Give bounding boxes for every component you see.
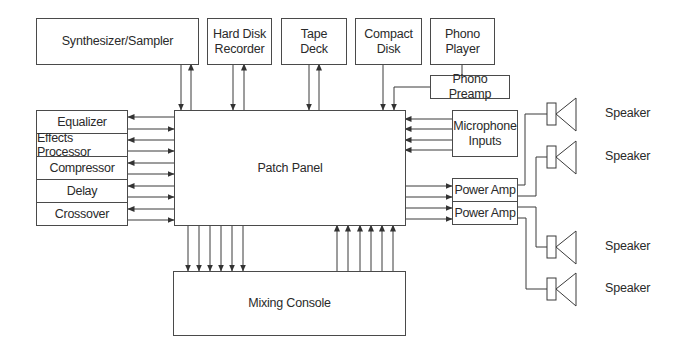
speaker-label-4: Speaker bbox=[605, 281, 650, 295]
delay-label: Delay bbox=[67, 184, 97, 198]
compact-disk-label: Compact Disk bbox=[364, 27, 413, 57]
mixing-console-label: Mixing Console bbox=[248, 296, 331, 311]
power-amp-label: Power Amp bbox=[454, 206, 515, 220]
patch-panel-label: Patch Panel bbox=[257, 161, 322, 176]
power-amp-label: Power Amp bbox=[454, 183, 515, 197]
hard-disk-recorder-box: Hard Disk Recorder bbox=[207, 18, 272, 65]
crossover-label: Crossover bbox=[55, 207, 109, 221]
speaker-icon bbox=[547, 231, 576, 264]
tape-deck-box: Tape Deck bbox=[281, 18, 347, 65]
phono-player-label: Phono Player bbox=[445, 27, 480, 57]
hard-disk-recorder-label: Hard Disk Recorder bbox=[213, 27, 266, 57]
compressor-box: Compressor bbox=[36, 156, 128, 180]
compressor-label: Compressor bbox=[49, 161, 114, 175]
power-amp-box-1: Power Amp bbox=[452, 178, 518, 202]
synthesizer-sampler-box: Synthesizer/Sampler bbox=[36, 18, 199, 65]
speaker-icon bbox=[547, 273, 576, 306]
equalizer-label: Equalizer bbox=[57, 115, 106, 129]
phono-preamp-label: Phono Preamp bbox=[431, 72, 509, 102]
preamp-to-patch-arrow bbox=[394, 87, 430, 110]
tape-deck-label: Tape Deck bbox=[300, 27, 328, 57]
speaker-label-2: Speaker bbox=[605, 149, 650, 163]
crossover-box: Crossover bbox=[36, 202, 128, 226]
mixing-console-box: Mixing Console bbox=[173, 271, 406, 336]
power-amp-box-2: Power Amp bbox=[452, 201, 518, 225]
patch-panel-box: Patch Panel bbox=[174, 110, 406, 226]
microphone-inputs-label: Microphone Inputs bbox=[453, 119, 516, 149]
delay-box: Delay bbox=[36, 179, 128, 203]
speaker-icon bbox=[547, 98, 576, 131]
effects-processor-label: Effects Processor bbox=[37, 131, 127, 159]
microphone-inputs-box: Microphone Inputs bbox=[452, 110, 518, 157]
phono-player-box: Phono Player bbox=[430, 18, 495, 65]
synthesizer-sampler-label: Synthesizer/Sampler bbox=[62, 34, 174, 49]
speaker-label-1: Speaker bbox=[605, 106, 650, 120]
effects-processor-box: Effects Processor bbox=[36, 133, 128, 157]
speaker-label-3: Speaker bbox=[605, 239, 650, 253]
speaker-icon bbox=[547, 141, 576, 174]
phono-preamp-box: Phono Preamp bbox=[430, 75, 510, 99]
compact-disk-box: Compact Disk bbox=[355, 18, 422, 65]
